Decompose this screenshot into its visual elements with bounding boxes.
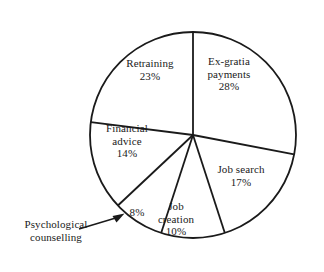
- slice-label-financial-name-line1: Financial: [90, 122, 164, 135]
- slice-label-psych-value-text: 8%: [124, 206, 150, 219]
- pie-chart-figure: Ex-gratia payments 28% Retraining 23% Jo…: [0, 0, 324, 272]
- slice-label-retraining-value: 23%: [110, 70, 190, 83]
- slice-label-ex-gratia-payments: Ex-gratia payments 28%: [190, 55, 268, 93]
- slice-label-ex-gratia-value: 28%: [190, 80, 268, 93]
- slice-label-job-search: Job search 17%: [200, 163, 282, 188]
- slice-label-ex-gratia-name-line1: Ex-gratia: [190, 55, 268, 68]
- slice-label-retraining-name: Retraining: [110, 57, 190, 70]
- slice-label-job-creation-name-line1: Job: [148, 200, 204, 213]
- slice-label-financial-name-line2: advice: [90, 135, 164, 148]
- slice-label-financial-value: 14%: [90, 147, 164, 160]
- slice-label-retraining: Retraining 23%: [110, 57, 190, 82]
- slice-label-psych-name-line1: Psychological: [4, 218, 108, 231]
- slice-label-ex-gratia-name-line2: payments: [190, 68, 268, 81]
- slice-label-job-search-value: 17%: [200, 176, 282, 189]
- slice-label-psych-name-line2: counselling: [4, 231, 108, 244]
- slice-label-job-creation-value: 10%: [148, 225, 204, 238]
- slice-label-psych-value: 8%: [124, 206, 150, 219]
- slice-label-psychological-counselling: Psychological counselling: [4, 218, 108, 243]
- slice-label-job-search-name: Job search: [200, 163, 282, 176]
- slice-label-financial-advice: Financial advice 14%: [90, 122, 164, 160]
- slice-label-job-creation: Job creation 10%: [148, 200, 204, 238]
- slice-label-job-creation-name-line2: creation: [148, 213, 204, 226]
- psych-callout-arrowhead: [113, 214, 125, 223]
